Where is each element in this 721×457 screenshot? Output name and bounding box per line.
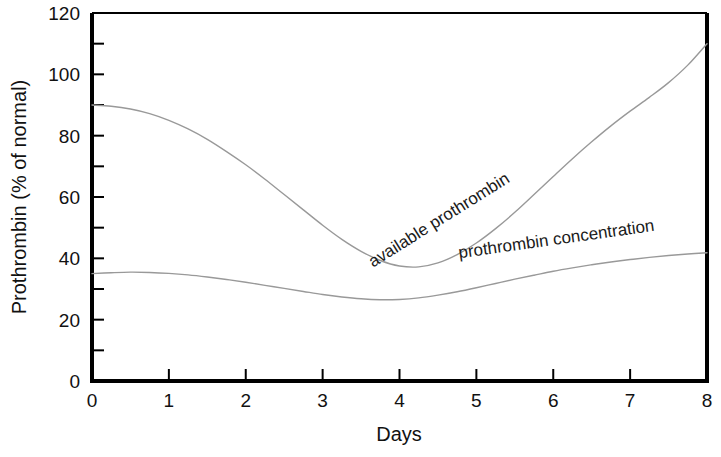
- y-axis-tick-label: 40: [59, 248, 80, 269]
- y-axis-tick-label: 100: [48, 64, 80, 85]
- y-axis-tick-labels: 020406080100120: [48, 3, 80, 392]
- x-axis-tick-label: 4: [394, 390, 405, 411]
- x-axis-title: Days: [376, 423, 422, 445]
- curve-annotation-group: available prothrombinprothrombin concent…: [365, 169, 656, 271]
- y-axis-tick-label: 0: [69, 371, 80, 392]
- x-axis-tick-label: 5: [471, 390, 482, 411]
- chart-container: 020406080100120 012345678 available prot…: [0, 0, 721, 457]
- x-axis-tick-label: 3: [317, 390, 328, 411]
- data-curve: [92, 253, 707, 300]
- x-axis-tick-label: 8: [702, 390, 713, 411]
- prothrombin-line-chart: 020406080100120 012345678 available prot…: [0, 0, 721, 457]
- x-axis-tick-labels: 012345678: [87, 390, 713, 411]
- y-axis-tick-label: 20: [59, 310, 80, 331]
- y-axis-tick-label: 80: [59, 126, 80, 147]
- x-axis-tick-label: 6: [548, 390, 559, 411]
- x-axis-tick-label: 2: [240, 390, 251, 411]
- y-axis-tick-label: 60: [59, 187, 80, 208]
- data-series-group: [92, 44, 707, 300]
- y-axis-tick-label: 120: [48, 3, 80, 24]
- axis-frame: [92, 13, 707, 381]
- curve-annotation-label: prothrombin concentration: [457, 216, 655, 262]
- x-axis-tick-label: 7: [625, 390, 636, 411]
- x-axis-tick-label: 0: [87, 390, 98, 411]
- x-axis-tick-label: 1: [164, 390, 175, 411]
- y-axis-title: Prothrombin (% of normal): [8, 80, 30, 315]
